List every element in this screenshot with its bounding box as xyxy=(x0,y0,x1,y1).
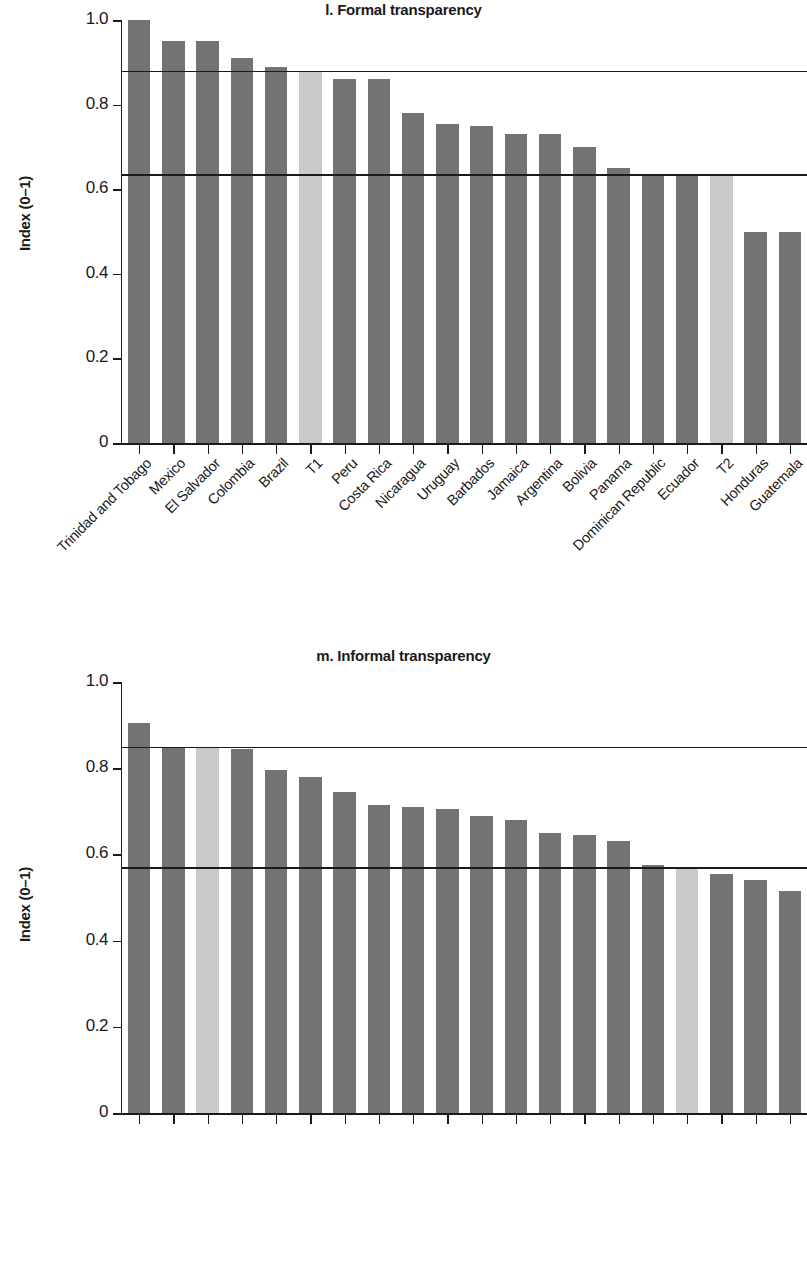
bar xyxy=(265,67,288,443)
x-tick xyxy=(173,1114,174,1124)
y-tick-label-m-1: 0.8 xyxy=(86,757,108,777)
reference-line-t2 xyxy=(121,174,807,176)
y-tick-label-l-4: 0.2 xyxy=(86,347,108,367)
bar xyxy=(676,174,699,443)
y-axis-line-formal xyxy=(121,20,123,443)
x-tick-label-wrap: T1 xyxy=(314,443,337,466)
y-tick-m-1: 0.8 xyxy=(113,768,121,770)
x-tick-label-wrap: T2 xyxy=(725,443,748,466)
reference-line-t1 xyxy=(121,71,807,73)
bar xyxy=(436,809,459,1113)
bar xyxy=(539,134,562,443)
bar xyxy=(779,232,802,444)
y-tick-label-l-0: 1.0 xyxy=(86,9,108,29)
x-tick xyxy=(447,1114,448,1124)
x-tick xyxy=(139,444,140,454)
y-axis-label-formal: Index (0–1) xyxy=(16,154,33,274)
x-tick-label: T1 xyxy=(303,455,326,478)
x-axis-line-informal xyxy=(121,1113,807,1115)
plot-area-informal: 1.00.80.60.40.20 xyxy=(122,682,807,1113)
y-tick-l-3: 0.4 xyxy=(113,274,121,276)
bar xyxy=(744,880,767,1113)
x-tick xyxy=(276,1114,277,1124)
x-tick-label: T2 xyxy=(714,455,737,478)
y-tick-l-2: 0.6 xyxy=(113,189,121,191)
y-tick-label-m-4: 0.2 xyxy=(86,1016,108,1036)
panel-informal-transparency: m. Informal transparency Index (0–1) 1.0… xyxy=(0,646,807,1266)
bar xyxy=(505,134,528,443)
x-tick xyxy=(756,1114,757,1124)
x-tick-label: Trinidad and Tobago xyxy=(54,455,154,555)
bar xyxy=(505,820,528,1113)
bar xyxy=(162,41,185,443)
y-tick-label-l-2: 0.6 xyxy=(86,178,108,198)
y-tick-m-5: 0 xyxy=(113,1113,121,1115)
bar xyxy=(368,79,391,443)
panel-title-formal: l. Formal transparency xyxy=(0,1,807,18)
bar xyxy=(573,147,596,443)
y-tick-l-1: 0.8 xyxy=(113,105,121,107)
x-tick xyxy=(242,1114,243,1124)
x-tick xyxy=(345,444,346,454)
x-tick xyxy=(310,1114,311,1124)
x-tick xyxy=(790,1114,791,1124)
bar xyxy=(299,777,322,1113)
x-tick xyxy=(721,1114,722,1124)
bar xyxy=(333,792,356,1113)
y-axis-label-informal: Index (0–1) xyxy=(16,845,33,965)
bar xyxy=(607,841,630,1113)
bar xyxy=(402,807,425,1113)
bar xyxy=(573,835,596,1113)
x-tick xyxy=(413,1114,414,1124)
panel-formal-transparency: l. Formal transparency Index (0–1) 1.00.… xyxy=(0,0,807,620)
bar xyxy=(642,174,665,443)
x-tick xyxy=(687,1114,688,1124)
y-tick-l-4: 0.2 xyxy=(113,358,121,360)
bar xyxy=(607,168,630,443)
x-tick xyxy=(584,1114,585,1124)
bar xyxy=(436,124,459,443)
reference-line-t1 xyxy=(121,747,807,749)
x-tick xyxy=(516,1114,517,1124)
bar xyxy=(470,816,493,1113)
y-tick-label-l-1: 0.8 xyxy=(86,94,108,114)
bar xyxy=(402,113,425,443)
y-tick-label-m-2: 0.6 xyxy=(86,843,108,863)
bar xyxy=(744,232,767,444)
x-tick xyxy=(379,1114,380,1124)
y-tick-label-m-5: 0 xyxy=(99,1102,108,1122)
bar xyxy=(196,747,219,1113)
y-tick-m-4: 0.2 xyxy=(113,1027,121,1029)
x-tick xyxy=(550,1114,551,1124)
x-tick xyxy=(756,444,757,454)
bar xyxy=(265,770,288,1113)
bar xyxy=(539,833,562,1113)
y-tick-m-3: 0.4 xyxy=(113,941,121,943)
bar xyxy=(299,71,322,443)
y-tick-m-2: 0.6 xyxy=(113,854,121,856)
bar xyxy=(333,79,356,443)
bar xyxy=(779,891,802,1113)
bar xyxy=(128,20,151,443)
x-tick xyxy=(345,1114,346,1124)
bar xyxy=(128,723,151,1113)
y-tick-l-5: 0 xyxy=(113,443,121,445)
bar xyxy=(162,747,185,1113)
x-tick xyxy=(653,1114,654,1124)
reference-line-t2 xyxy=(121,867,807,869)
x-tick xyxy=(139,1114,140,1124)
y-tick-label-m-3: 0.4 xyxy=(86,930,108,950)
x-tick xyxy=(208,1114,209,1124)
y-tick-label-l-3: 0.4 xyxy=(86,263,108,283)
y-tick-l-0: 1.0 xyxy=(113,20,121,22)
panel-title-informal: m. Informal transparency xyxy=(0,647,807,664)
bar xyxy=(368,805,391,1113)
y-tick-label-m-0: 1.0 xyxy=(86,671,108,691)
bar xyxy=(676,867,699,1113)
bar xyxy=(710,874,733,1113)
bar xyxy=(642,865,665,1113)
y-tick-label-l-5: 0 xyxy=(99,432,108,452)
x-tick xyxy=(619,1114,620,1124)
bar xyxy=(470,126,493,443)
bar xyxy=(231,749,254,1113)
